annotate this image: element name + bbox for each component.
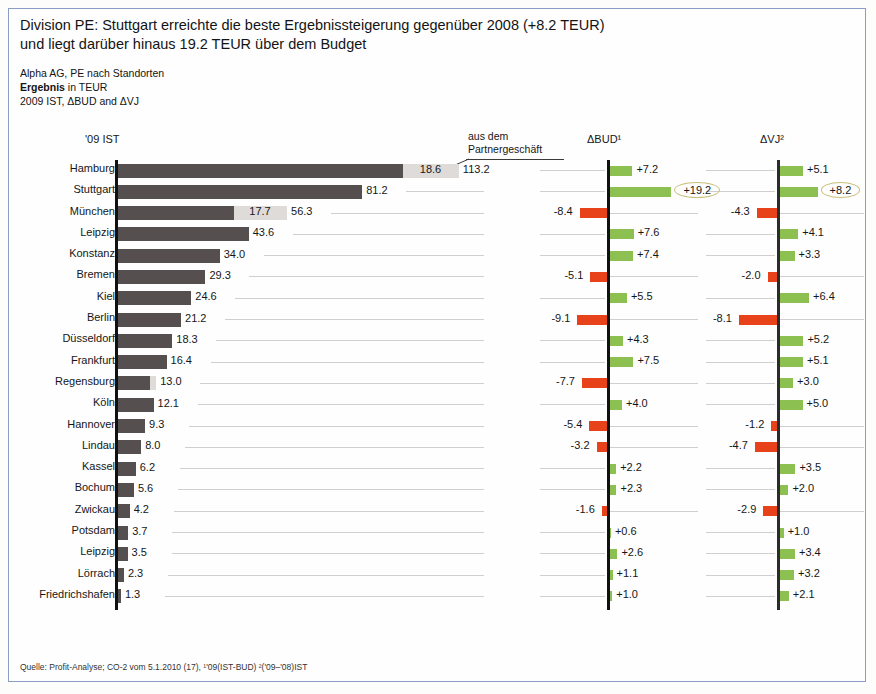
bar-vj-positive xyxy=(779,528,784,538)
table-row: Konstanz34.0 xyxy=(14,245,534,266)
value-ist-total: 9.3 xyxy=(149,418,164,430)
subtitle-line-1: Alpha AG, PE nach Standorten xyxy=(20,66,520,80)
gridline xyxy=(540,596,605,597)
bar-bud-value: +7.2 xyxy=(636,163,658,175)
bar-vj-value: -2.9 xyxy=(737,503,756,515)
category-label-regensburg: Regensburg xyxy=(55,375,115,387)
table-row: +2.2 xyxy=(540,458,700,479)
bar-vj-value: +2.0 xyxy=(792,482,814,494)
bar-bud-value: +7.4 xyxy=(637,248,659,260)
bar-vj-value: +3.0 xyxy=(797,375,819,387)
gridline xyxy=(293,234,484,235)
table-row: +1.1 xyxy=(540,565,700,586)
bar-vj-value: +5.1 xyxy=(807,163,829,175)
bar-bud-callout: +19.2 xyxy=(674,182,720,198)
bar-vj-negative xyxy=(755,442,777,452)
bar-vj-positive xyxy=(779,464,795,474)
bar-vj-positive xyxy=(779,549,795,559)
bar-ist-dark xyxy=(117,483,134,497)
bar-bud-value: -7.7 xyxy=(556,375,575,387)
gridline xyxy=(540,532,605,533)
bar-bud-value: +0.6 xyxy=(615,525,637,537)
category-label-kiel: Kiel xyxy=(97,290,115,302)
table-row: -3.2 xyxy=(540,437,700,458)
bar-vj-positive xyxy=(779,378,793,388)
category-label-berlin: Berlin xyxy=(87,311,115,323)
value-ist-total: 56.3 xyxy=(291,205,312,217)
axis-line-vj xyxy=(777,160,780,610)
table-row: +3.2 xyxy=(706,565,866,586)
bar-bud-value: -3.2 xyxy=(571,439,590,451)
bar-ist-dark xyxy=(117,270,205,284)
table-row: Leipzig43.6 xyxy=(14,224,534,245)
value-ist-total: 16.4 xyxy=(171,354,192,366)
bar-ist-dark xyxy=(117,206,234,220)
bar-vj-value: +3.5 xyxy=(799,461,821,473)
gridline xyxy=(540,191,605,192)
table-row: Potsdam3.7 xyxy=(14,522,534,543)
bar-vj-value: +5.1 xyxy=(807,354,829,366)
table-row: -1.6 xyxy=(540,501,700,522)
bar-ist-dark xyxy=(117,164,403,178)
bar-bud-value: -5.1 xyxy=(564,269,583,281)
table-row: -2.9 xyxy=(706,501,866,522)
bar-bud-positive xyxy=(609,357,633,367)
table-row: Lörrach2.3 xyxy=(14,565,534,586)
table-row: Regensburg13.0 xyxy=(14,373,534,394)
category-label-zwickau: Zwickau xyxy=(75,503,115,515)
bar-ist-dark xyxy=(117,419,145,433)
table-row: +1.0 xyxy=(540,586,700,607)
bar-ist-partner xyxy=(150,376,157,390)
bar-vj-positive xyxy=(779,400,803,410)
gridline xyxy=(706,596,775,597)
bar-vj-positive xyxy=(779,229,798,239)
gridline xyxy=(706,575,775,576)
table-row: +5.1 xyxy=(706,352,866,373)
category-label-leipzig: Leipzig xyxy=(80,545,115,557)
gridline xyxy=(540,553,605,554)
gridline xyxy=(779,213,864,214)
bar-vj-value: +4.1 xyxy=(802,226,824,238)
table-row: +7.2 xyxy=(540,160,700,181)
gridline xyxy=(178,489,484,490)
category-label-lindau: Lindau xyxy=(82,439,115,451)
gridline xyxy=(540,362,605,363)
table-row: -8.4 xyxy=(540,203,700,224)
category-label-düsseldorf: Düsseldorf xyxy=(62,332,115,344)
bar-ist-dark xyxy=(117,249,220,263)
table-row: +7.4 xyxy=(540,245,700,266)
bar-bud-positive xyxy=(609,464,616,474)
bar-vj-negative xyxy=(763,506,777,516)
bar-vj-positive xyxy=(779,570,794,580)
bar-ist-dark xyxy=(117,440,141,454)
bar-bud-positive xyxy=(609,166,632,176)
gridline xyxy=(779,426,864,427)
bar-bud-value: +7.5 xyxy=(637,354,659,366)
bar-vj-value: +3.3 xyxy=(799,248,821,260)
gridline xyxy=(216,340,484,341)
value-ist-partner: 17.7 xyxy=(249,205,270,217)
bar-bud-value: -8.4 xyxy=(554,205,573,217)
gridline xyxy=(165,596,484,597)
bar-bud-positive xyxy=(609,400,622,410)
bar-bud-value: -5.4 xyxy=(563,418,582,430)
bar-vj-value: +2.1 xyxy=(793,588,815,600)
category-label-friedrichshafen: Friedrichshafen xyxy=(39,588,115,600)
bar-ist-dark xyxy=(117,504,130,518)
bar-bud-value: +2.2 xyxy=(620,461,642,473)
bar-bud-negative xyxy=(589,421,607,431)
bar-vj-positive xyxy=(779,187,818,197)
gridline xyxy=(609,447,698,448)
gridline xyxy=(180,468,484,469)
gridline xyxy=(189,426,484,427)
value-ist-total: 5.6 xyxy=(138,482,153,494)
subtitle-rest: in TEUR xyxy=(65,81,107,93)
gridline xyxy=(779,319,864,320)
category-label-hamburg: Hamburg xyxy=(70,162,115,174)
bar-ist-dark xyxy=(117,568,124,582)
value-ist-total: 3.7 xyxy=(132,525,147,537)
category-label-bremen: Bremen xyxy=(76,268,115,280)
table-row: +5.0 xyxy=(706,394,866,415)
table-row: +4.1 xyxy=(706,224,866,245)
gridline xyxy=(779,276,864,277)
